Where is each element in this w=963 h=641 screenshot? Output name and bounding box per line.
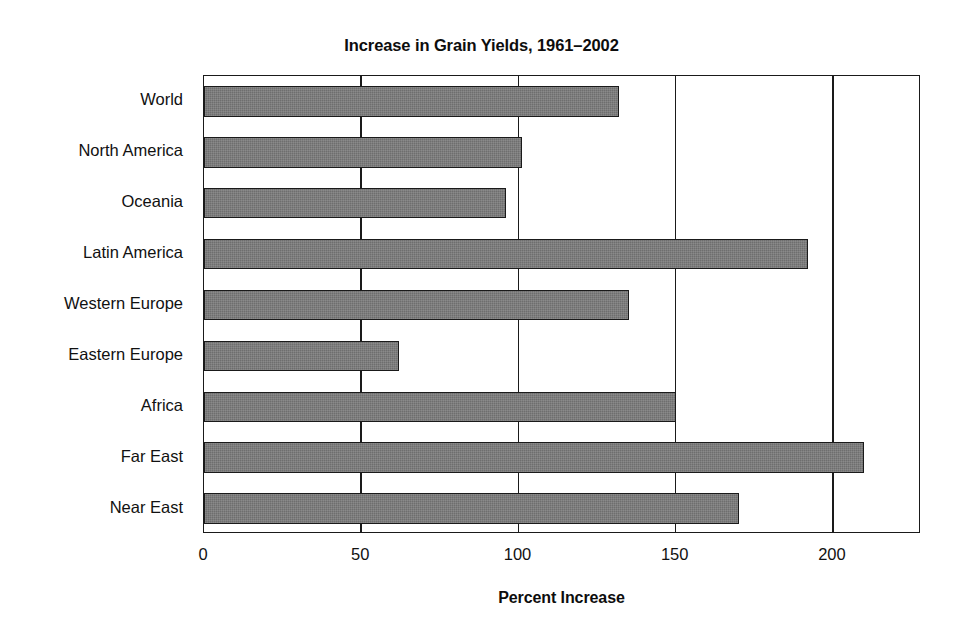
bar-row — [204, 239, 919, 270]
bar-eastern-europe — [204, 341, 399, 372]
y-axis-category-labels: WorldNorth AmericaOceaniaLatin AmericaWe… — [0, 75, 193, 533]
bar-row — [204, 188, 919, 219]
bar-chart: Increase in Grain Yields, 1961–2002 Worl… — [0, 0, 963, 641]
y-label-eastern-europe: Eastern Europe — [0, 346, 193, 363]
bar-row — [204, 86, 919, 117]
bar-latin-america — [204, 239, 808, 270]
bar-far-east — [204, 442, 864, 473]
bar-row — [204, 137, 919, 168]
y-label-north-america: North America — [0, 142, 193, 159]
y-label-far-east: Far East — [0, 448, 193, 465]
y-label-africa: Africa — [0, 397, 193, 414]
bar-row — [204, 290, 919, 321]
y-label-world: World — [0, 91, 193, 108]
bar-near-east — [204, 493, 739, 524]
x-tick-label-150: 150 — [661, 546, 689, 563]
bar-africa — [204, 392, 676, 423]
bar-row — [204, 442, 919, 473]
bar-world — [204, 86, 619, 117]
bars-layer — [204, 76, 919, 532]
plot-area — [203, 75, 920, 533]
bar-western-europe — [204, 290, 629, 321]
x-axis-tick-labels: 050100150200 — [0, 546, 963, 572]
y-label-western-europe: Western Europe — [0, 295, 193, 312]
y-label-latin-america: Latin America — [0, 244, 193, 261]
bar-north-america — [204, 137, 522, 168]
x-tick-label-200: 200 — [818, 546, 846, 563]
bar-oceania — [204, 188, 506, 219]
x-tick-label-0: 0 — [198, 546, 207, 563]
x-axis-title: Percent Increase — [203, 589, 920, 607]
bar-row — [204, 341, 919, 372]
bar-row — [204, 392, 919, 423]
x-tick-label-100: 100 — [504, 546, 532, 563]
x-tick-label-50: 50 — [351, 546, 369, 563]
y-label-oceania: Oceania — [0, 193, 193, 210]
y-label-near-east: Near East — [0, 499, 193, 516]
chart-title: Increase in Grain Yields, 1961–2002 — [0, 36, 963, 55]
bar-row — [204, 493, 919, 524]
